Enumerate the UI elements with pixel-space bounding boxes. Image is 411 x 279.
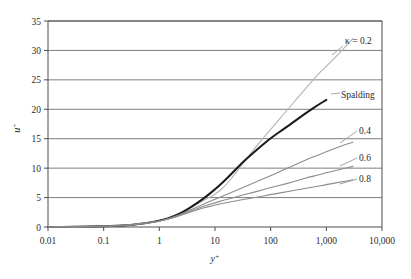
x-tick-label-1,000: 1,000: [316, 236, 338, 246]
x-tick-label-0.01: 0.01: [40, 236, 57, 246]
y-tick-label-30: 30: [32, 46, 42, 56]
y-axis-title-superscript: +: [11, 123, 19, 128]
x-tick-label-0.1: 0.1: [98, 236, 110, 246]
label-0.4: 0.4: [359, 126, 371, 136]
label-kappa-0.2: κ = 0.2: [345, 36, 372, 46]
label-0.6: 0.6: [359, 153, 371, 163]
x-tick-label-1: 1: [157, 236, 162, 246]
y-tick-label-10: 10: [32, 164, 42, 174]
label-spalding: Spalding: [341, 90, 375, 100]
law-of-the-wall-chart: 05101520253035 0.010.11101001,00010,000 …: [0, 0, 411, 279]
y-tick-label-25: 25: [32, 75, 42, 85]
x-tick-label-10: 10: [210, 236, 220, 246]
x-axis-title-superscript: +: [215, 253, 220, 261]
y-tick-label-35: 35: [32, 17, 42, 27]
y-tick-label-0: 0: [36, 223, 41, 233]
x-tick-label-100: 100: [264, 236, 279, 246]
y-tick-label-5: 5: [36, 193, 41, 203]
y-tick-label-20: 20: [32, 105, 42, 115]
x-tick-label-10,000: 10,000: [369, 236, 395, 246]
y-tick-label-15: 15: [32, 134, 42, 144]
chart-figure: 05101520253035 0.010.11101001,00010,000 …: [0, 0, 411, 279]
label-0.8: 0.8: [359, 174, 371, 184]
